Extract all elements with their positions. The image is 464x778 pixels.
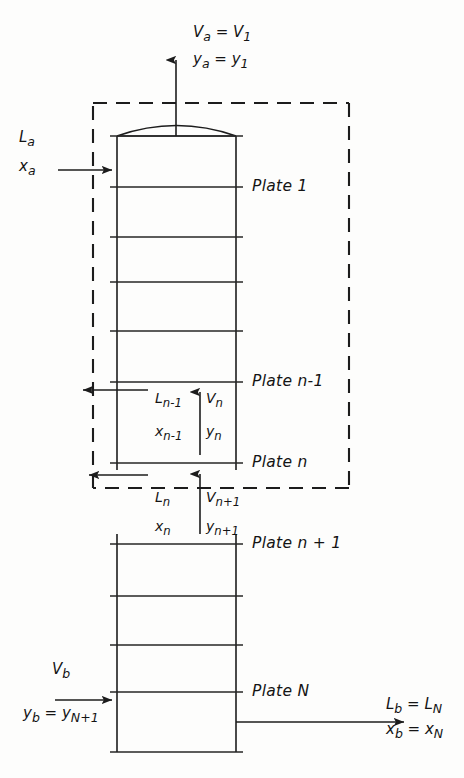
bottom-liquid-composition-label: xb = xN <box>386 722 443 741</box>
interstage-lower-vapor-flow-label: Vn+1 <box>206 490 240 508</box>
plate-label-1: Plate 1 <box>252 179 308 195</box>
interstage-upper-arrows <box>83 390 200 455</box>
interstage-upper-vapor-composition-label: yn <box>206 424 222 442</box>
plate-label-n-plus-1: Plate n + 1 <box>252 536 342 552</box>
interstage-upper-liquid-flow-label: Ln-1 <box>155 391 182 409</box>
interstage-upper-liquid-composition-label: xn-1 <box>155 424 182 442</box>
lower-plate-lines <box>110 544 243 692</box>
interstage-upper-vapor-flow-label: Vn <box>206 391 223 409</box>
interstage-lower-arrows <box>89 474 200 534</box>
plate-label-N: Plate N <box>252 684 309 700</box>
bottom-vapor-composition-label: yb = yN+1 <box>23 706 99 725</box>
top-vapor-flow-label: Va = V1 <box>193 25 251 44</box>
plate-label-n: Plate n <box>252 455 308 471</box>
upper-plate-lines <box>110 136 243 463</box>
lower-column-shell <box>110 534 243 752</box>
top-vapor-composition-label: ya = y1 <box>193 52 249 71</box>
bottom-liquid-flow-label: Lb = LN <box>386 697 442 716</box>
interstage-lower-liquid-composition-label: xn <box>155 519 171 537</box>
plate-label-n-minus-1: Plate n-1 <box>252 374 324 390</box>
interstage-lower-vapor-composition-label: yn+1 <box>206 519 239 537</box>
distillation-column-diagram: Va = V1 ya = y1 La xa Plate 1 Plate n-1 … <box>0 0 464 778</box>
feed-liquid-flow-label: La <box>19 130 35 149</box>
bottom-vapor-flow-label: Vb <box>52 662 70 681</box>
upper-column-shell <box>117 126 236 471</box>
feed-liquid-composition-label: xa <box>19 159 36 178</box>
interstage-lower-liquid-flow-label: Ln <box>155 490 170 508</box>
